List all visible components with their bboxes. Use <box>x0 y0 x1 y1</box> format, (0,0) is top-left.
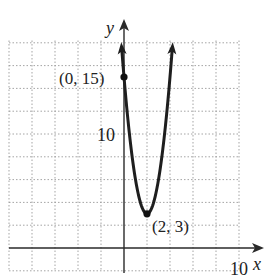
x-axis <box>9 243 264 253</box>
intercept-label: (0, 15) <box>59 69 104 88</box>
y-tick-label: 10 <box>97 125 115 145</box>
parabola-graph: y x 10 10 (0, 15) (2, 3) <box>0 0 268 279</box>
vertex-point <box>143 210 150 217</box>
x-axis-label: x <box>252 254 261 274</box>
y-axis <box>119 19 129 273</box>
vertex-label: (2, 3) <box>152 217 189 236</box>
intercept-point <box>120 73 127 80</box>
y-axis-label: y <box>104 18 114 38</box>
x-tick-label: 10 <box>230 259 248 279</box>
